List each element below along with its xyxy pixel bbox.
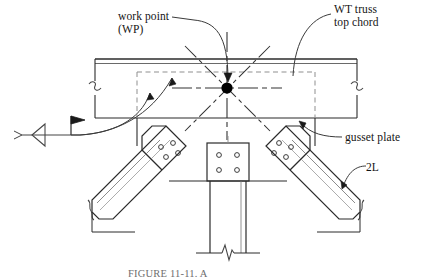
label-work-point-line2: (WP) — [118, 23, 169, 36]
break-symbol-left-angle — [88, 200, 94, 220]
break-symbol-column-bottom — [222, 245, 234, 260]
right-angle-extension — [317, 212, 360, 232]
label-work-point: work point (WP) — [118, 10, 169, 36]
left-angle-extension — [92, 212, 135, 232]
gusset-plate-hidden-outline — [137, 72, 315, 118]
leader-2l — [341, 166, 366, 189]
work-point-marker — [221, 82, 232, 93]
leader-wt-truss — [293, 14, 331, 76]
label-work-point-line1: work point — [118, 10, 169, 23]
vertical-column-member — [169, 136, 287, 253]
field-weld-symbol — [14, 116, 85, 146]
gusset-plate-visible-edges — [137, 118, 315, 146]
label-wt-truss-top-chord: WT truss top chord — [334, 3, 379, 29]
figure-caption: FIGURE 11-11. A — [128, 268, 208, 278]
label-wt-truss-line2: top chord — [334, 16, 379, 29]
label-gusset-plate: gusset plate — [345, 131, 400, 144]
leader-weld-to-gusset — [80, 93, 154, 135]
figure-root: work point (WP) WT truss top chord gusse… — [0, 0, 421, 278]
label-wt-truss-line1: WT truss — [334, 3, 379, 16]
left-diagonal-angle-member — [92, 126, 186, 219]
break-symbol-chord-left — [89, 82, 101, 90]
break-symbol-right-angle — [358, 200, 364, 220]
break-symbol-chord-right — [351, 82, 363, 90]
leader-gusset-plate — [299, 121, 342, 137]
label-double-angle: 2L — [366, 161, 379, 174]
